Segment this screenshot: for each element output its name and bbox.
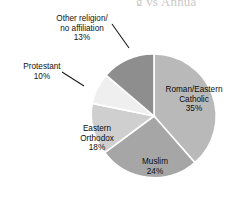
pie-chart-figure: g vs Annua Other religion/ no affiliatio… [0,0,246,206]
pie-label-eastern-orthodox-line1: Eastern [83,124,111,133]
pie-label-muslim-line1: Muslim [142,157,168,166]
pie-label-other-religion-percent: 13% [34,33,130,43]
pie-label-eastern-orthodox: Eastern Orthodox 18% [62,124,132,153]
pie-label-eastern-orthodox-percent: 18% [62,143,132,153]
pie-label-protestant-percent: 10% [2,72,82,82]
pie-label-muslim: Muslim 24% [124,157,186,176]
pie-label-roman-eastern-catholic-percent: 35% [156,104,232,114]
pie-label-protestant-line1: Protestant [23,62,60,71]
pie-label-roman-eastern-catholic-line1: Roman/Eastern [166,85,223,94]
pie-label-roman-eastern-catholic: Roman/Eastern Catholic 35% [156,85,232,114]
pie-label-other-religion: Other religion/ no affiliation 13% [34,14,130,43]
pie-label-other-religion-line2: no affiliation [60,24,104,33]
pie-label-eastern-orthodox-line2: Orthodox [80,134,114,143]
pie-label-muslim-percent: 24% [124,167,186,177]
pie-label-protestant: Protestant 10% [2,62,82,81]
pie-label-roman-eastern-catholic-line2: Catholic [179,95,209,104]
pie-label-other-religion-line1: Other religion/ [56,14,107,23]
